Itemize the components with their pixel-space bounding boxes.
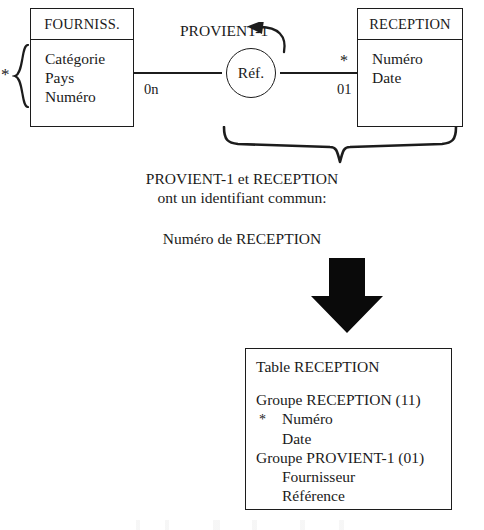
- attribute-item: Pays: [45, 68, 133, 87]
- identifier-star-reception-link: *: [340, 53, 348, 69]
- link-line-left: [134, 72, 222, 74]
- entity-reception-attributes: Numéro Date: [358, 40, 462, 87]
- note-line: ont un identifiant commun:: [0, 189, 484, 208]
- attribute-item: Date: [372, 68, 462, 87]
- identifier-star-numero: *: [259, 410, 266, 429]
- attribute-item: Numéro: [45, 87, 133, 106]
- result-table-line: Groupe RECEPTION (11): [256, 390, 451, 409]
- note-line: PROVIENT-1 et RECEPTION: [0, 170, 484, 189]
- entity-fourniss-attributes: Catégorie Pays Numéro: [31, 40, 133, 106]
- cardinality-right: 01: [337, 82, 352, 97]
- cardinality-left: 0n: [144, 82, 159, 97]
- result-table-line: Date: [256, 429, 451, 448]
- identifier-brace-icon: [12, 44, 30, 108]
- result-table-reception[interactable]: Table RECEPTION Groupe RECEPTION (11) * …: [245, 348, 452, 510]
- entity-fourniss-title: FOURNISS.: [31, 9, 133, 40]
- link-line-right: [280, 72, 358, 74]
- result-table-line: Groupe PROVIENT-1 (01): [256, 448, 451, 467]
- note-common-identifier: PROVIENT-1 et RECEPTION ont un identifia…: [0, 170, 484, 207]
- result-table-title: Table RECEPTION: [256, 357, 451, 376]
- attribute-item: Catégorie: [45, 49, 133, 68]
- curved-arrow-left-icon: [234, 22, 294, 54]
- entity-fourniss[interactable]: FOURNISS. Catégorie Pays Numéro: [30, 8, 134, 127]
- result-table-line: * Numéro: [256, 409, 451, 428]
- down-arrow-icon: [308, 258, 386, 334]
- association-circle-label: Réf.: [238, 65, 264, 81]
- result-table-line: Fournisseur: [256, 467, 451, 486]
- identifier-star-fourniss: *: [1, 66, 10, 83]
- diagram-canvas: FOURNISS. Catégorie Pays Numéro * Réf. P…: [0, 0, 484, 530]
- result-table-line-text: Numéro: [282, 410, 333, 427]
- scan-edge-artifact: [0, 520, 484, 530]
- entity-reception-title: RECEPTION: [358, 9, 462, 40]
- association-node[interactable]: Réf.: [226, 48, 276, 98]
- attribute-item: Numéro: [372, 49, 462, 68]
- note-identifier-value: Numéro de RECEPTION: [0, 230, 484, 249]
- entity-reception[interactable]: RECEPTION Numéro Date: [357, 8, 463, 127]
- grouping-brace-icon: [222, 126, 458, 164]
- result-table-line: Référence: [256, 486, 451, 505]
